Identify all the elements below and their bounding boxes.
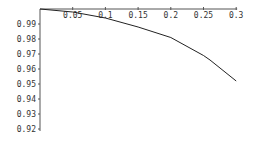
y-tick-label: 0.99 xyxy=(17,20,36,29)
x-tick-label: 0.2 xyxy=(164,11,179,20)
y-tick-label: 0.97 xyxy=(17,50,36,59)
y-tick-label: 0.95 xyxy=(17,80,36,89)
x-tick-label: 0.1 xyxy=(98,11,113,20)
y-tick-label: 0.94 xyxy=(17,95,36,104)
y-tick-label: 0.96 xyxy=(17,65,36,74)
x-tick-label: 0.15 xyxy=(128,11,147,20)
y-tick-label: 0.98 xyxy=(17,35,36,44)
y-tick-label: 0.92 xyxy=(17,125,36,134)
x-tick-label: 0.25 xyxy=(194,11,213,20)
y-tick-label: 0.93 xyxy=(17,110,36,119)
x-tick-label: 0.3 xyxy=(229,11,244,20)
tick-labels: 0.050.10.150.20.250.30.990.980.970.960.9… xyxy=(17,11,244,134)
axes xyxy=(38,7,237,131)
line-chart: 0.050.10.150.20.250.30.990.980.970.960.9… xyxy=(0,0,255,147)
